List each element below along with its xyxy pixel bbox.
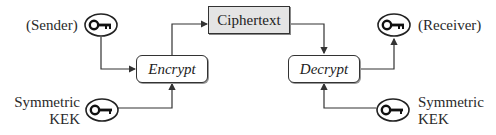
kek-left-label-line1: Symmetric	[12, 94, 80, 110]
kek-right-label-line2: KEK	[418, 111, 449, 127]
kek-left-label-line2: KEK	[12, 111, 80, 127]
decrypt-box: Decrypt	[288, 55, 360, 83]
ciphertext-box: Ciphertext	[208, 6, 290, 34]
sender-label: (Sender)	[26, 17, 78, 33]
kek-right-label-line1: Symmetric	[418, 94, 484, 110]
kek-left-key-icon	[85, 98, 119, 122]
sender-key-icon	[84, 13, 118, 37]
kek-right-key-icon	[376, 98, 410, 122]
receiver-label: (Receiver)	[418, 17, 481, 33]
receiver-key-icon	[377, 13, 411, 37]
encrypt-box: Encrypt	[136, 55, 208, 83]
